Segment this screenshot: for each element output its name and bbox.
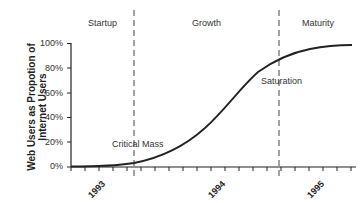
phase-label-growth: Growth	[192, 18, 221, 28]
annotation-saturation: Saturation	[261, 76, 302, 86]
phase-label-startup: Startup	[88, 18, 117, 28]
y-tick-100: 100%	[33, 38, 63, 48]
chart-plot	[0, 0, 361, 203]
y-tick-80: 80%	[33, 63, 63, 73]
y-tick-0: 0%	[33, 161, 63, 171]
y-tick-20: 20%	[33, 137, 63, 147]
annotation-critical-mass: Critical Mass	[112, 139, 164, 149]
y-tick-40: 40%	[33, 112, 63, 122]
x-ticks	[71, 167, 351, 171]
phase-label-maturity: Maturity	[302, 18, 334, 28]
y-tick-60: 60%	[33, 88, 63, 98]
